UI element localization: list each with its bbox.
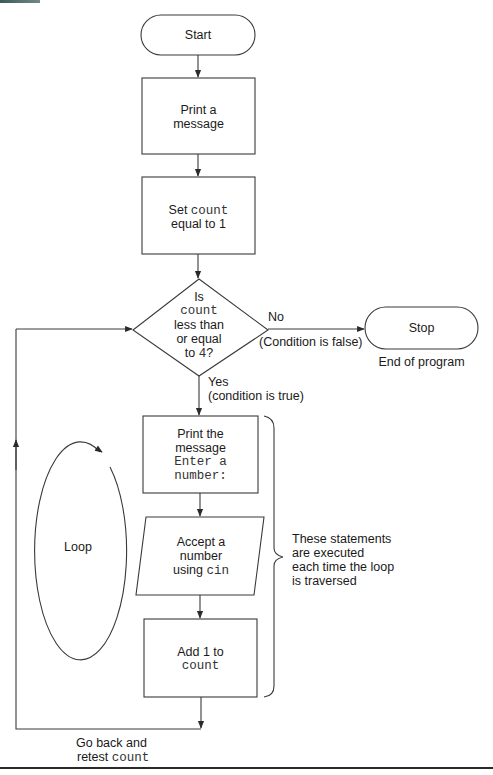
set-count-line2: equal to 1	[142, 217, 255, 231]
print-prompt-line2: message	[143, 441, 258, 455]
print-message-line1: Print a	[142, 103, 255, 117]
set-count-text: Set	[169, 203, 191, 217]
decision-line2-code: count	[149, 304, 249, 318]
decision-question-mark: ?	[206, 346, 213, 360]
accept-input-line2: number	[146, 549, 256, 563]
decision-line3: less than	[149, 318, 249, 332]
print-prompt-line4-code: number:	[143, 469, 258, 483]
decision-to-text: to	[185, 346, 199, 360]
no-branch-note: (Condition is false)	[259, 335, 363, 349]
print-message-line2: message	[142, 117, 255, 131]
brace-note-line4: is traversed	[292, 574, 357, 588]
print-prompt-line1: Print the	[143, 427, 258, 441]
loop-body-brace	[264, 416, 283, 697]
brace-note-line2: are executed	[292, 546, 364, 560]
return-note-retest-text: retest	[77, 750, 112, 764]
accept-input-cin-code: cin	[206, 564, 229, 578]
brace-note-line3: each time the loop	[292, 560, 394, 574]
set-count-line1: Set count	[142, 203, 255, 218]
no-branch-label: No	[268, 310, 284, 324]
return-note-count-code: count	[112, 751, 150, 765]
return-note-line2: retest count	[77, 750, 149, 765]
decision-line1: Is	[149, 290, 249, 304]
decision-line5: to 4?	[149, 346, 249, 361]
set-count-code: count	[191, 204, 229, 218]
accept-input-using-text: using	[173, 563, 206, 577]
decision-line4: or equal	[149, 332, 249, 346]
accept-input-line3: using cin	[146, 563, 256, 578]
print-prompt-line3-code: Enter a	[143, 455, 258, 469]
increment-line1: Add 1 to	[144, 645, 257, 659]
loop-label: Loop	[52, 540, 104, 554]
yes-branch-note: (condition is true)	[208, 389, 304, 403]
start-label: Start	[141, 28, 255, 42]
accept-input-line1: Accept a	[146, 535, 256, 549]
return-note-line1: Go back and	[76, 736, 147, 750]
yes-branch-label: Yes	[208, 375, 228, 389]
stop-caption: End of program	[365, 355, 478, 369]
stop-label: Stop	[365, 321, 478, 335]
brace-note-line1: These statements	[292, 532, 391, 546]
increment-line2-code: count	[144, 659, 257, 673]
bottom-rule-divider	[0, 767, 493, 769]
